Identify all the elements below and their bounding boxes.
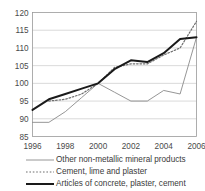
y-tick-label: 105: [15, 62, 29, 71]
line-chart: 120115110105100959085 199619982000200220…: [0, 0, 205, 191]
series-lines: [33, 21, 197, 122]
y-tick-label: 95: [19, 97, 29, 106]
y-tick-label: 110: [15, 44, 28, 53]
legend-label-0: Other non-metallic mineral products: [56, 155, 186, 164]
x-tick-label: 2002: [122, 142, 141, 151]
plot-frame: [33, 13, 197, 137]
legend-label-1: Cement, lime and plaster: [56, 167, 147, 176]
x-tick-label: 2000: [89, 142, 108, 151]
x-tick-label: 2004: [155, 142, 174, 151]
series-line-1: [49, 21, 197, 101]
gridlines: [33, 30, 197, 119]
chart-legend: Other non-metallic mineral productsCemen…: [26, 155, 186, 188]
y-tick-label: 85: [19, 133, 29, 142]
x-axis-tick-labels: 199619982000200220042006: [23, 142, 205, 151]
series-line-0: [33, 37, 197, 122]
y-tick-label: 115: [15, 26, 28, 35]
x-tick-label: 1996: [23, 142, 42, 151]
chart-container: 120115110105100959085 199619982000200220…: [0, 0, 205, 191]
legend-label-2: Articles of concrete, plaster, cement: [56, 179, 186, 188]
y-tick-label: 120: [15, 9, 29, 18]
x-tick-label: 1998: [56, 142, 75, 151]
y-tick-label: 90: [19, 115, 29, 124]
x-tick-label: 2006: [187, 142, 205, 151]
y-tick-label: 100: [15, 79, 29, 88]
y-axis-tick-labels: 120115110105100959085: [15, 9, 29, 142]
